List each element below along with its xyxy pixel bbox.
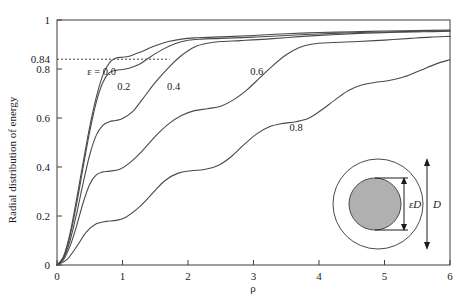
y-tick-label: 0.6 (36, 112, 50, 124)
curve-label-2: 0.4 (167, 81, 181, 92)
x-tick-label: 2 (185, 270, 191, 282)
x-tick-label: 3 (251, 270, 257, 282)
curve-label-3: 0.6 (250, 66, 263, 77)
inner-core-circle (349, 178, 401, 230)
x-axis-ticks (57, 260, 450, 265)
curve-label-0: ε = 0.0 (87, 66, 116, 77)
x-tick-label: 5 (382, 270, 388, 282)
cladding-diameter-dimension: D (424, 158, 441, 250)
x-tick-label: 0 (54, 270, 60, 282)
curve-label-1: 0.2 (117, 81, 130, 92)
x-tick-label: 4 (316, 270, 322, 282)
cladding-diameter-label: D (432, 198, 441, 210)
y-tick-label: 0.2 (36, 210, 50, 222)
y-tick-label: 0.4 (36, 161, 50, 173)
x-axis-tick-labels: 0123456 (54, 270, 453, 282)
figure-container: 0123456 00.20.40.60.80.841 ε = 0.00.20.4… (0, 0, 470, 303)
x-tick-label: 6 (447, 270, 453, 282)
y-axis-ticks (57, 20, 62, 265)
y-tick-label: 0.84 (31, 53, 51, 65)
x-tick-label: 1 (120, 270, 126, 282)
y-axis-title: Radial distribution of energy (6, 96, 18, 223)
radial-energy-distribution-chart: 0123456 00.20.40.60.80.841 ε = 0.00.20.4… (0, 0, 470, 303)
y-axis-tick-labels: 00.20.40.60.80.841 (31, 14, 51, 271)
curve-label-4: 0.8 (290, 122, 303, 133)
core-diameter-label: εD (409, 198, 421, 210)
y-tick-label: 0 (45, 259, 51, 271)
x-axis-title: ρ (250, 282, 256, 294)
y-tick-label: 1 (45, 14, 51, 26)
curve-labels: ε = 0.00.20.40.60.8 (87, 66, 302, 133)
fiber-cross-section-diagram: εD D (333, 158, 441, 250)
